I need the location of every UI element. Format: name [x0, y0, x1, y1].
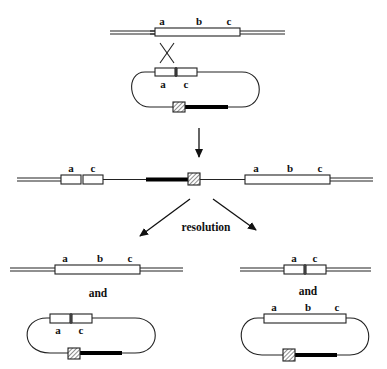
top-plasmid: a c	[132, 67, 260, 112]
right-plasmid: a b c	[241, 301, 369, 361]
and-label-right: and	[299, 285, 318, 297]
label-a: a	[160, 78, 166, 90]
abc-gene-box	[155, 28, 240, 36]
label-c: c	[335, 301, 340, 313]
label-c: c	[318, 162, 323, 174]
hatched-element	[188, 173, 200, 185]
label-c: c	[128, 252, 133, 264]
left-chromosome: a b c	[10, 252, 183, 274]
label-a: a	[68, 162, 74, 174]
c-box	[306, 265, 326, 274]
resolution-label: resolution	[182, 221, 232, 233]
abc-gene-box	[264, 314, 346, 323]
a-box	[284, 265, 304, 274]
label-c: c	[227, 15, 232, 27]
c-box	[83, 175, 103, 184]
label-b: b	[196, 15, 202, 27]
integrate: a c a b c	[17, 162, 373, 185]
c-box	[72, 314, 92, 323]
label-a: a	[159, 15, 165, 27]
label-a: a	[291, 252, 297, 264]
a-box	[155, 68, 175, 76]
label-a: a	[271, 301, 277, 313]
label-a: a	[253, 162, 259, 174]
label-a: a	[55, 324, 61, 336]
label-b: b	[305, 301, 311, 313]
and-label-left: and	[89, 287, 108, 299]
left-plasmid: a c	[27, 313, 155, 359]
top-chromosome: a b c	[110, 15, 285, 36]
hatched-element	[68, 348, 80, 359]
label-b: b	[97, 252, 103, 264]
label-c: c	[184, 78, 189, 90]
c-box	[177, 68, 197, 76]
crossover-x	[160, 43, 174, 63]
recombination-diagram: a b c a c a c a b c	[0, 0, 387, 369]
a-box	[50, 314, 70, 323]
hatched-element	[173, 102, 185, 112]
label-c: c	[313, 252, 318, 264]
label-c: c	[79, 324, 84, 336]
abc-gene-box	[245, 175, 330, 184]
label-a: a	[62, 252, 68, 264]
hatched-element	[283, 349, 295, 361]
abc-gene-box	[55, 265, 140, 274]
a-box	[61, 175, 81, 184]
right-chromosome: a c	[240, 252, 371, 275]
label-c: c	[91, 162, 96, 174]
label-b: b	[287, 162, 293, 174]
